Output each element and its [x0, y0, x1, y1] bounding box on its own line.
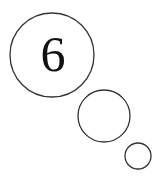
medium-bubble [78, 90, 130, 142]
small-bubble [125, 143, 151, 169]
bubble-number: 6 [41, 26, 66, 82]
thought-bubble-diagram: 6 [0, 0, 157, 181]
